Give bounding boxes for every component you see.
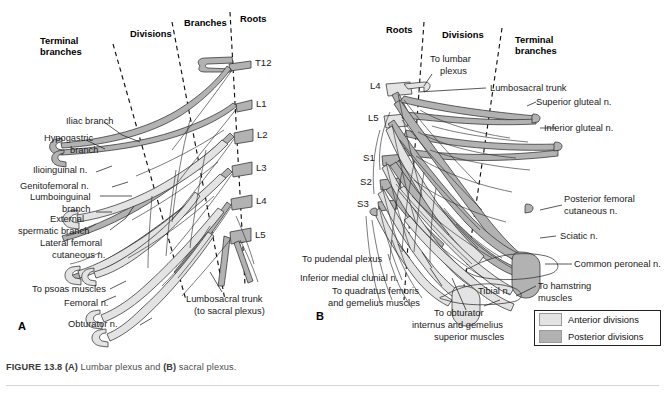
panel-b-root-l4: L4 <box>370 80 381 91</box>
panel-a-nerve-iliac-branch: Iliac branch <box>66 116 114 126</box>
panel-b-label-divisions: Divisions <box>442 29 484 40</box>
legend-row-posterior-divisions: Posterior divisions <box>535 328 660 345</box>
panel-a-nerve-lumbosacral-line2: (to sacral plexus) <box>194 306 265 316</box>
panel-b-nerve-inferior-gluteal: Inferior gluteal n. <box>544 123 613 133</box>
panel-b-nerve-to-hamstring-line2: muscles <box>538 293 572 303</box>
panel-b-letter: B <box>316 310 324 322</box>
legend-swatch-anterior <box>539 313 562 326</box>
plexus-diagram: Terminal branches Divisions Branches Roo… <box>0 0 665 360</box>
panel-b-group: Roots Divisions Terminal branches L4 L5 … <box>300 22 661 342</box>
root-stub-l1 <box>236 100 252 112</box>
panel-a-root-l2: L2 <box>257 129 268 140</box>
legend-label-anterior: Anterior divisions <box>568 315 639 325</box>
caption-tag-a: (A) <box>65 362 78 372</box>
panel-b-nerve-quadratus-line2: and gemelius muscles <box>328 298 420 308</box>
panel-b-nerve-to-pudendal: To pudendal plexus <box>302 254 382 264</box>
panel-b-nerve-to-lumbar-line2: plexus <box>440 66 467 76</box>
panel-a-nerve-lumbosacral-line1: Lumbosacral trunk <box>186 294 263 304</box>
panel-a-nerve-lumboinguinal-line2: branch <box>62 204 90 214</box>
caption-text-b: sacral plexus. <box>176 362 236 372</box>
panel-b-nerve-lumbosacral-trunk: Lumbosacral trunk <box>490 83 567 93</box>
panel-a-nerve-femoral: Femoral n. <box>64 298 108 308</box>
panel-a-group: Terminal branches Divisions Branches Roo… <box>18 12 272 347</box>
hook-s3-small <box>370 208 377 216</box>
panel-b-nerve-post-femoral-line1: Posterior femoral <box>564 194 635 204</box>
panel-b-nerve-to-hamstring-line1: To hamstring <box>538 281 591 291</box>
panel-a-nerve-psoas: To psoas muscles <box>32 284 106 294</box>
panel-b-label-roots: Roots <box>386 24 413 35</box>
figure-caption: FIGURE 13.8 (A) Lumbar plexus and (B) sa… <box>6 362 659 372</box>
panel-b-nerve-to-obturator-line2: internus and gemelius <box>412 320 503 330</box>
panel-a-root-l1: L1 <box>256 98 267 109</box>
panel-a-label-terminal-branches-line2: branches <box>40 46 82 57</box>
panel-b-root-s1: S1 <box>363 152 375 163</box>
panel-b-root-s2: S2 <box>360 176 372 187</box>
legend-row-anterior-divisions: Anterior divisions <box>535 311 660 328</box>
panel-a-root-l3: L3 <box>256 162 267 173</box>
nerve-band-obturator-ant <box>107 232 214 341</box>
legend-swatch-posterior <box>539 330 562 343</box>
leader-genitofemoral <box>112 182 128 187</box>
panel-a-label-terminal-branches-line1: Terminal <box>40 35 78 46</box>
panel-a-root-l5: L5 <box>255 229 266 240</box>
leader-superior-gluteal <box>527 102 536 106</box>
panel-b-label-terminal-line2: branches <box>515 45 557 56</box>
hook-superior-gluteal <box>532 114 540 123</box>
panel-b-nerve-post-femoral-line2: cutaneous n. <box>564 206 617 216</box>
root-stub-l3 <box>232 162 252 177</box>
leader-ilioinguinal <box>96 166 112 172</box>
panel-a-nerve-external-line2: spermatic branch <box>18 226 89 236</box>
legend-label-posterior: Posterior divisions <box>568 332 643 342</box>
panel-a-nerve-lumboinguinal-line1: Lumboinguinal <box>30 192 90 202</box>
panel-a-nerve-lateral-femoral-line1: Lateral femoral <box>40 238 102 248</box>
hook-obturator <box>92 329 108 347</box>
panel-b-label-terminal-line1: Terminal <box>515 34 553 45</box>
panel-a-nerve-lateral-femoral-line2: cutaneous n. <box>52 250 105 260</box>
panel-b-root-s3: S3 <box>357 198 369 209</box>
hook-inferior-gluteal <box>554 142 562 151</box>
root-stub-l4 <box>231 195 252 210</box>
panel-a-nerve-obturator: Obturator n. <box>68 319 118 329</box>
panel-a-label-roots: Roots <box>240 13 267 24</box>
panel-a-nerve-external-line1: External <box>50 214 84 224</box>
panel-b-nerve-tibial: Tibial n. <box>478 286 510 296</box>
panel-a-connector-strands <box>66 70 258 296</box>
panel-b-root-l5: L5 <box>368 112 379 123</box>
caption-figure-number: FIGURE 13.8 <box>6 362 62 372</box>
panel-b-nerve-sciatic: Sciatic n. <box>560 231 598 241</box>
panel-a-nerve-genitofemoral: Genitofemoral n. <box>20 181 89 191</box>
panel-b-nerve-to-obturator-line3: superior muscles <box>434 332 505 342</box>
panel-a-nerve-hypogastric-line2: branch <box>70 145 98 155</box>
panel-a-label-branches: Branches <box>184 17 227 28</box>
panel-b-nerve-to-obturator-line1: To obturator <box>434 308 484 318</box>
figure-container: Terminal branches Divisions Branches Roo… <box>0 0 665 394</box>
nerve-band-lumbosacral-trunk <box>218 236 230 286</box>
panel-a-root-t12: T12 <box>255 57 272 68</box>
panel-a-label-divisions: Divisions <box>130 28 172 39</box>
root-stub-l2 <box>234 129 253 144</box>
caption-divider <box>6 385 659 386</box>
legend: Anterior divisions Posterior divisions <box>534 310 661 346</box>
panel-a-letter: A <box>18 320 26 332</box>
panel-b-nerve-to-lumbar-line1: To lumbar <box>430 54 471 64</box>
panel-a-nerve-ilioinguinal: Ilioinguinal n. <box>33 165 87 175</box>
panel-b-nerve-quadratus-line1: To quadratus femoris <box>332 286 419 296</box>
panel-a-root-l4: L4 <box>256 195 267 206</box>
leader-sciatic <box>540 236 556 238</box>
caption-text-a: Lumbar plexus and <box>78 362 163 372</box>
panel-b-nerve-superior-gluteal: Superior gluteal n. <box>536 97 611 107</box>
panel-b-nerve-common-peroneal: Common peroneal n. <box>574 259 661 269</box>
leader-psoas <box>110 281 126 289</box>
caption-tag-b: (B) <box>163 362 176 372</box>
hook-post-femoral-cut <box>525 204 533 213</box>
leader-post-femoral-cut <box>540 205 562 210</box>
panel-b-nerve-inferior-medial-clunial: Inferior medial clunial n. <box>300 273 398 283</box>
panel-a-nerve-hypogastric-line1: Hypogastric <box>44 133 93 143</box>
